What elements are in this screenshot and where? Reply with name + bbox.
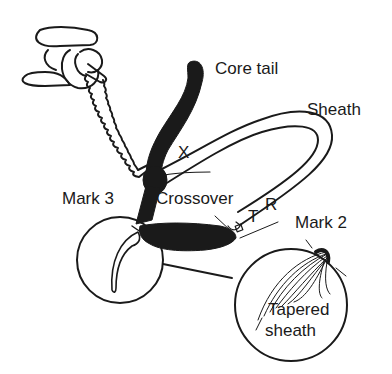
label-sheath: Sheath: [307, 101, 361, 118]
diagram-artwork: [0, 0, 392, 374]
rope-splice-diagram: Core tail Sheath X Mark 3 Crossover R T …: [0, 0, 392, 374]
cleat-icon: [22, 27, 106, 88]
standing-part: [85, 76, 158, 177]
label-r: R: [265, 196, 277, 213]
core-tail: [146, 61, 203, 176]
label-tapered: Tapered: [268, 301, 329, 318]
label-crossover: Crossover: [156, 190, 233, 207]
crossover-section: [139, 223, 236, 251]
label-core-tail: Core tail: [215, 60, 278, 77]
label-t: T: [248, 208, 258, 225]
label-mark3: Mark 3: [62, 190, 114, 207]
label-mark2: Mark 2: [295, 214, 347, 231]
label-sheath-inset: sheath: [265, 322, 316, 339]
label-x: X: [178, 144, 189, 161]
